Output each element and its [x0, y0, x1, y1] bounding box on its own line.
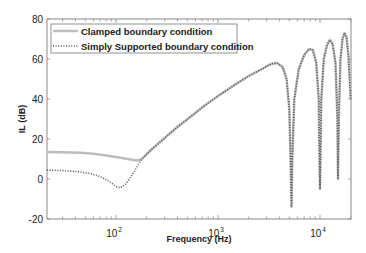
y-tick-label: -20 — [29, 214, 44, 225]
y-tick-label: 20 — [32, 134, 44, 145]
y-tick-label: 40 — [32, 94, 44, 105]
x-axis-label: Frequency (Hz) — [166, 234, 231, 244]
y-axis-label: IL (dB) — [17, 105, 27, 133]
x-tick-label: 104 — [310, 226, 326, 239]
legend: Clamped boundary condition Simply Suppor… — [51, 24, 254, 53]
y-tick-label: 0 — [37, 174, 43, 185]
insertion-loss-chart: -20020406080 102103104 Clamped boundary … — [0, 0, 366, 253]
y-tick-label: 80 — [32, 14, 44, 25]
y-tick-labels: -20020406080 — [29, 14, 44, 225]
legend-label-simply-supported: Simply Supported boundary condition — [81, 41, 254, 52]
legend-label-clamped: Clamped boundary condition — [81, 26, 213, 37]
chart-svg: -20020406080 102103104 Clamped boundary … — [0, 0, 366, 253]
x-tick-label: 102 — [106, 226, 122, 239]
y-tick-label: 60 — [32, 54, 44, 65]
